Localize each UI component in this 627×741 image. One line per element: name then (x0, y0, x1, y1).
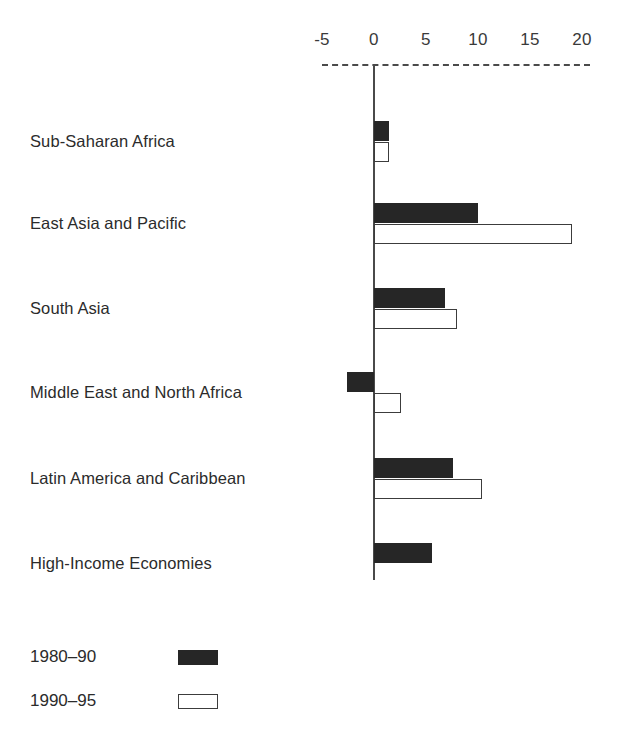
bar-1980-90-3 (347, 372, 374, 392)
category-label-3: Middle East and North Africa (30, 383, 242, 401)
legend-label-1: 1990–95 (30, 692, 178, 710)
x-tick--5: -5 (314, 31, 330, 48)
bar-1980-90-0 (374, 121, 389, 141)
legend-swatch-open (178, 694, 218, 709)
category-label-2: South Asia (30, 299, 110, 317)
x-tick-0: 0 (369, 31, 379, 48)
bar-chart: -505101520 Sub-Saharan AfricaEast Asia a… (0, 0, 627, 741)
axis-dashed-rule (322, 64, 590, 66)
bar-1990-95-1 (374, 224, 572, 244)
x-tick-5: 5 (421, 31, 431, 48)
legend-item-0: 1980–90 (30, 648, 218, 666)
bar-1990-95-2 (374, 309, 457, 329)
bar-1990-95-3 (374, 393, 401, 413)
bar-1980-90-5 (374, 543, 432, 563)
x-tick-20: 20 (572, 31, 592, 48)
legend-item-1: 1990–95 (30, 692, 218, 710)
legend-swatch-filled (178, 650, 218, 665)
bar-1990-95-4 (374, 479, 482, 499)
x-tick-10: 10 (468, 31, 488, 48)
category-label-1: East Asia and Pacific (30, 214, 186, 232)
bar-1980-90-2 (374, 288, 445, 308)
category-label-5: High-Income Economies (30, 554, 212, 572)
category-label-4: Latin America and Caribbean (30, 469, 246, 487)
x-tick-15: 15 (520, 31, 540, 48)
bar-1980-90-1 (374, 203, 478, 223)
legend-label-0: 1980–90 (30, 648, 178, 666)
bar-1990-95-0 (374, 142, 389, 162)
category-label-0: Sub-Saharan Africa (30, 132, 175, 150)
bar-1980-90-4 (374, 458, 453, 478)
